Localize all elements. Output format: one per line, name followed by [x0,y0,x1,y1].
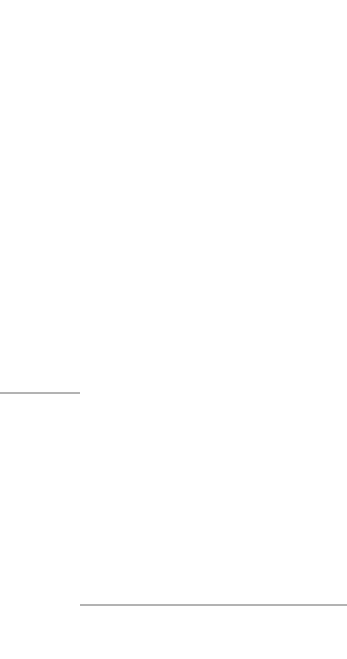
diagram-canvas [0,0,347,659]
connector-lines [0,0,347,659]
